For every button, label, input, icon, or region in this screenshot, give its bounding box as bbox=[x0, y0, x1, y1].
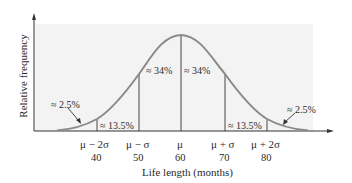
x-tick-symbol-mu-minus-2sigma: μ − 2σ bbox=[80, 139, 109, 150]
y-axis-label: Relative frequency bbox=[17, 21, 29, 131]
x-tick-symbol-mu-minus-sigma: μ − σ bbox=[126, 139, 150, 150]
x-tick-symbol-mu: μ bbox=[177, 139, 183, 150]
x-tick-value-70: 70 bbox=[219, 153, 230, 164]
x-tick-value-50: 50 bbox=[133, 153, 144, 164]
x-tick-value-40: 40 bbox=[91, 153, 102, 164]
plot-background bbox=[35, 24, 313, 131]
region-label-left-34: ≈ 34% bbox=[146, 66, 172, 76]
y-axis-arrow-icon bbox=[32, 13, 36, 20]
x-tick-value-60: 60 bbox=[175, 153, 186, 164]
x-tick-symbol-mu-plus-sigma: μ + σ bbox=[211, 139, 235, 150]
region-label-right-13: ≈ 13.5% bbox=[228, 121, 262, 131]
region-label-right-tail: ≈ 2.5% bbox=[287, 105, 316, 115]
region-label-left-tail: ≈ 2.5% bbox=[51, 100, 80, 110]
x-axis-arrow-icon bbox=[327, 129, 334, 133]
region-label-right-34: ≈ 34% bbox=[184, 66, 210, 76]
x-tick-value-80: 80 bbox=[261, 153, 272, 164]
x-axis-label: Life length (months) bbox=[142, 166, 233, 178]
x-tick-symbol-mu-plus-2sigma: μ + 2σ bbox=[251, 139, 280, 150]
region-label-left-13: ≈ 13.5% bbox=[100, 121, 134, 131]
